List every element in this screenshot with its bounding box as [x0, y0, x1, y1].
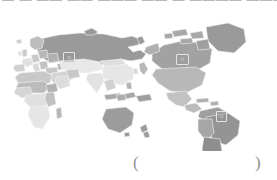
region-central-america [184, 103, 202, 113]
map-label-russia: □ [63, 52, 75, 63]
region-korea [133, 68, 138, 74]
region-cuba [196, 98, 209, 103]
region-tasmania [124, 132, 130, 137]
region-newguinea [136, 94, 152, 102]
cropped-header-line: ▬ ▬ ▬▬ ▬▬ ▬▬▬ ▬▬ ▬ ▬▬▬▬ ▬▬▬ ▬ ▬▬ [0, 0, 277, 9]
region-southern-africa [28, 106, 50, 129]
map-label-brazil: □ [216, 111, 227, 122]
caption-open-paren: ( [133, 152, 139, 174]
header-text: ▬ ▬ ▬▬ ▬▬ ▬▬▬ ▬▬ ▬ ▬▬▬▬ ▬▬▬ ▬ ▬▬ [2, 0, 277, 4]
region-italy [33, 63, 40, 72]
region-hispaniola [210, 101, 219, 106]
map-label-canada: □ [176, 54, 189, 65]
region-baffin [196, 39, 210, 50]
world-map-svg [0, 9, 277, 151]
caption-inner-text [143, 152, 253, 174]
region-arctic-islands-3 [180, 38, 193, 44]
region-madagascar [56, 107, 62, 119]
region-australia [102, 107, 134, 133]
region-argentina-chile [202, 137, 222, 151]
region-greenland [206, 23, 246, 53]
figure-caption: ( ) [0, 152, 277, 176]
region-united-states [152, 67, 206, 93]
region-japan [139, 62, 148, 75]
region-ireland [18, 51, 22, 56]
region-arctic-islands-1 [172, 29, 188, 37]
region-arctic-islands-4 [164, 33, 173, 39]
caption-close-paren: ) [255, 152, 261, 174]
region-iceland [16, 39, 22, 44]
page-root: ▬ ▬ ▬▬ ▬▬ ▬▬▬ ▬▬ ▬ ▬▬▬▬ ▬▬▬ ▬ ▬▬ [0, 0, 277, 180]
region-scandinavia [30, 36, 44, 50]
world-map-figure: □ □ □ [0, 9, 277, 151]
region-india [86, 73, 104, 93]
region-philippines [126, 82, 132, 89]
region-uk [22, 49, 27, 57]
region-borneo [116, 94, 126, 101]
region-ukraine [47, 53, 59, 63]
region-poland-baltic [38, 50, 48, 59]
region-iberia [13, 64, 25, 72]
